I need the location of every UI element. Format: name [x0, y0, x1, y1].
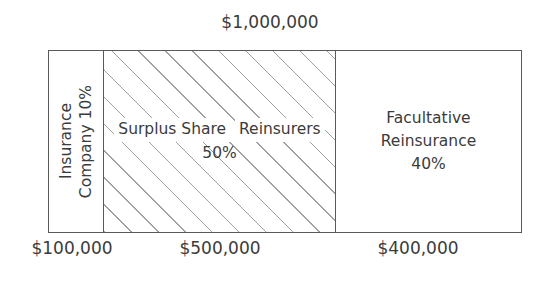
- segment-surplus-share-reinsurers[interactable]: Surplus Share Reinsurers 50%: [104, 51, 336, 232]
- total-amount-label: $1,000,000: [221, 12, 318, 32]
- amount-axis-labels: $100,000 $500,000 $400,000: [0, 238, 548, 270]
- stacked-bar: Insurance Company 10% Surplus Share Rein…: [48, 50, 522, 233]
- amount-label-facultative: $400,000: [377, 238, 458, 258]
- amount-label-insurance-company: $100,000: [31, 238, 112, 258]
- surplus-share-percent: 50%: [114, 142, 324, 165]
- insurance-company-label: Insurance Company 10%: [57, 85, 95, 198]
- facultative-label-line1: Facultative: [381, 107, 476, 130]
- facultative-percent: 40%: [381, 153, 476, 176]
- insurance-company-label-line1: Insurance: [57, 103, 75, 179]
- amount-label-surplus-share: $500,000: [179, 238, 260, 258]
- insurance-company-label-line2: Company 10%: [77, 85, 95, 198]
- segment-facultative-reinsurance[interactable]: Facultative Reinsurance 40%: [336, 51, 521, 232]
- surplus-share-label-line1: Surplus Share: [114, 118, 230, 141]
- facultative-reinsurance-label: Facultative Reinsurance 40%: [381, 107, 476, 177]
- insurance-layer-diagram: $1,000,000 Insurance Company 10% Surplus…: [0, 0, 548, 281]
- surplus-share-label-line2: Reinsurers: [235, 118, 325, 141]
- surplus-share-label: Surplus Share Reinsurers 50%: [114, 118, 324, 165]
- facultative-label-line2: Reinsurance: [381, 130, 476, 153]
- segment-insurance-company[interactable]: Insurance Company 10%: [49, 51, 104, 232]
